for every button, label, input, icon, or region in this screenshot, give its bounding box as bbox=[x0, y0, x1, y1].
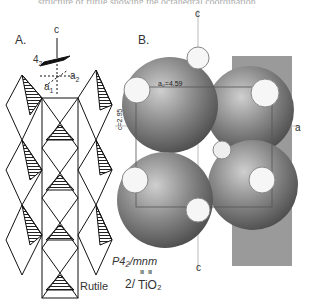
axis-a1-label: a1 bbox=[44, 81, 53, 94]
c0-dimension-label: c=2.95 bbox=[116, 109, 123, 130]
axis-a-label: a bbox=[295, 122, 301, 133]
space-group-label: P4₂/mnm bbox=[112, 255, 157, 267]
octahedra-chain-diagram bbox=[6, 38, 112, 298]
a0-dimension-label: a₀=4.59 bbox=[158, 80, 183, 87]
chemical-formula: TiO₂ bbox=[138, 278, 162, 292]
axis-c-top-label: c bbox=[195, 8, 200, 19]
formula-superscript: Ⅲ Ⅲ bbox=[140, 268, 153, 275]
space-filling-model bbox=[115, 10, 300, 270]
axis-c-bottom-label: c bbox=[196, 262, 201, 273]
axis-c-label: c bbox=[54, 24, 59, 35]
panel-a-label: A. bbox=[15, 33, 26, 47]
formula-prefix: 2/ bbox=[125, 277, 135, 291]
axis-a2-label: a2 bbox=[70, 70, 79, 83]
mineral-name: Rutile bbox=[80, 280, 108, 292]
panel-b-label: B. bbox=[138, 33, 149, 47]
screw-axis-label: 42 bbox=[33, 54, 42, 67]
